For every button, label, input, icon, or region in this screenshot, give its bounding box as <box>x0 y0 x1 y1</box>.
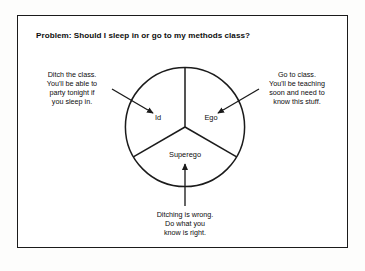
sector-label-ego: Ego <box>191 113 231 122</box>
sector-label-id: Id <box>138 113 178 122</box>
page-title: Problem: Should I sleep in or go to my m… <box>36 31 326 41</box>
callout-text-id: Ditch the class. You'll be able to party… <box>30 70 114 106</box>
sector-label-superego: Superego <box>150 150 220 159</box>
callout-text-ego: Go to class. You'll be teaching soon and… <box>253 70 341 106</box>
psyche-pie-diagram <box>124 66 246 188</box>
callout-text-superego: Ditching is wrong. Do what you know is r… <box>133 210 237 237</box>
